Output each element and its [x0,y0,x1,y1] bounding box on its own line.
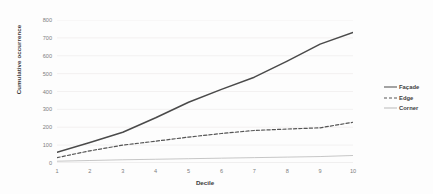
y-axis-tick-labels: 0100200300400500600700800 [28,0,52,194]
series-line-corner [57,155,353,161]
y-tick-label: 400 [28,89,52,95]
y-tick-label: 500 [28,71,52,77]
y-tick-label: 0 [28,160,52,166]
legend-item-faade[interactable]: Façade [384,82,433,93]
legend-item-label: Edge [399,95,413,101]
legend-key-icon [384,84,397,91]
legend-item-corner[interactable]: Corner [384,103,433,114]
series-line-faade [57,33,353,153]
legend-key-icon [384,94,397,101]
x-tick-label: 10 [343,168,363,174]
legend-item-edge[interactable]: Edge [384,93,433,104]
x-tick-label: 2 [80,168,100,174]
x-tick-label: 8 [277,168,297,174]
y-tick-label: 200 [28,124,52,130]
x-tick-label: 7 [244,168,264,174]
legend-item-label: Corner [399,105,418,111]
line-chart: Cumulative occurrence 010020030040050060… [0,0,433,194]
plot-svg [57,20,353,163]
chart-legend: FaçadeEdgeCorner [384,82,433,114]
series-line-edge [57,122,353,157]
x-tick-label: 9 [310,168,330,174]
x-axis-title: Decile [0,179,410,186]
y-tick-label: 700 [28,35,52,41]
x-tick-label: 5 [179,168,199,174]
y-axis-title: Cumulative occurrence [15,10,22,110]
legend-item-label: Façade [399,84,419,90]
y-tick-label: 100 [28,142,52,148]
y-tick-label: 600 [28,53,52,59]
x-tick-label: 4 [146,168,166,174]
y-tick-label: 300 [28,106,52,112]
legend-key-icon [384,105,397,112]
gridlines [57,20,353,163]
x-tick-label: 6 [211,168,231,174]
x-tick-label: 3 [113,168,133,174]
series-lines [57,33,353,162]
y-tick-label: 800 [28,17,52,23]
x-tick-label: 1 [47,168,67,174]
plot-area [57,20,353,163]
